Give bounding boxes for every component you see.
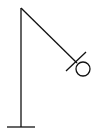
stand-diagram	[0, 0, 99, 134]
circle	[76, 62, 90, 76]
arm	[21, 8, 77, 63]
